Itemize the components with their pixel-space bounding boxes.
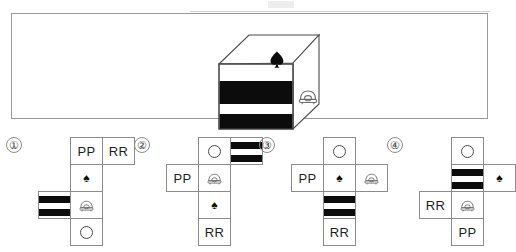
option-4-cell-spade: ♠: [483, 164, 516, 192]
circle-icon: [461, 145, 474, 158]
option-3-cell-spade: ♠: [323, 164, 356, 192]
spade-icon: ♠: [336, 172, 343, 184]
spade-icon: ♠: [496, 172, 503, 184]
option-3-cell-circle: [323, 137, 356, 165]
option-4-cell-pp: PP: [451, 218, 484, 246]
option-number-2: ②: [134, 137, 150, 153]
answer-option-4[interactable]: ④ ♠RRPP: [381, 133, 506, 252]
option-4-cell-rr: RR: [419, 191, 452, 219]
option-4-cell-circle: [451, 137, 484, 165]
option-number-4: ④: [387, 137, 403, 153]
option-1-cell-striped: [38, 191, 71, 219]
cube-figure: [217, 32, 327, 134]
telephone-icon: [78, 199, 95, 212]
option-1-cell-circle: [70, 218, 103, 246]
option-2-cell-pp: PP: [166, 164, 199, 192]
telephone-icon: [459, 199, 476, 212]
telephone-icon: [363, 172, 380, 185]
option-1-cell-phone: [70, 191, 103, 219]
option-3-cell-pp: PP: [291, 164, 324, 192]
option-2-cell-phone: [198, 164, 231, 192]
answer-option-3[interactable]: ③ PP♠RR: [253, 133, 378, 252]
telephone-icon: [206, 172, 223, 185]
answer-option-2[interactable]: ② PP♠RR: [128, 133, 253, 252]
spade-icon: ♠: [211, 199, 218, 211]
option-number-3: ③: [259, 137, 275, 153]
option-1-cell-spade: ♠: [70, 164, 103, 192]
circle-icon: [208, 145, 221, 158]
circle-icon: [333, 145, 346, 158]
option-4-cell-phone: [451, 191, 484, 219]
option-2-cell-spade: ♠: [198, 191, 231, 219]
scan-artifact-smudge: [268, 1, 294, 8]
spade-icon: ♠: [83, 172, 90, 184]
scan-artifact-line: [190, 11, 490, 12]
option-4-cell-striped: [451, 164, 484, 192]
question-panel: [11, 13, 488, 119]
option-2-cell-circle: [198, 137, 231, 165]
option-3-cell-striped: [323, 191, 356, 219]
option-1-cell-pp: PP: [70, 137, 103, 165]
circle-icon: [80, 226, 93, 239]
answer-option-1[interactable]: ① PPRR♠: [0, 133, 125, 252]
option-3-cell-rr: RR: [323, 218, 356, 246]
option-2-cell-rr: RR: [198, 218, 231, 246]
option-number-1: ①: [6, 137, 22, 153]
